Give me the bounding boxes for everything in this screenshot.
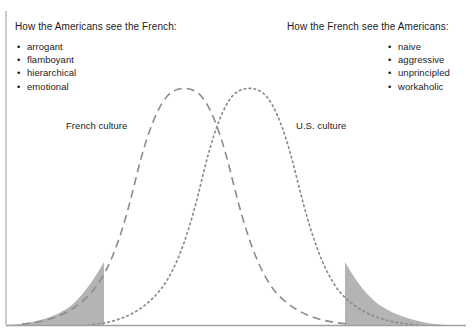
list-item: • naive	[388, 40, 450, 53]
list-item: • aggressive	[388, 53, 450, 66]
bullet-icon: •	[17, 53, 20, 66]
list-item: • emotional	[17, 80, 76, 93]
bullet-icon: •	[388, 40, 391, 53]
bullet-icon: •	[388, 53, 391, 66]
traits-list-left: • arrogant • flamboyant • hierarchical •…	[17, 40, 76, 93]
list-item: • workaholic	[388, 80, 450, 93]
list-item-label: flamboyant	[27, 54, 74, 65]
heading-french-see-americans: How the French see the Americans:	[287, 21, 449, 33]
curve-label-french-culture: French culture	[66, 120, 127, 132]
left-tail-shading	[6, 262, 104, 325]
bullet-icon: •	[17, 66, 20, 79]
list-item: • hierarchical	[17, 66, 76, 79]
list-item: • arrogant	[17, 40, 76, 53]
bullet-icon: •	[17, 40, 20, 53]
list-item-label: emotional	[27, 81, 69, 92]
list-item-label: naive	[398, 41, 421, 52]
bullet-icon: •	[17, 80, 20, 93]
traits-list-right: • naive • aggressive • unprincipled • wo…	[388, 40, 450, 93]
list-item-label: aggressive	[398, 54, 444, 65]
heading-americans-see-french: How the Americans see the French:	[15, 21, 177, 33]
diagram-canvas: How the Americans see the French: How th…	[0, 0, 472, 332]
right-tail-shading	[345, 262, 445, 325]
list-item-label: unprincipled	[398, 67, 450, 78]
list-item: • flamboyant	[17, 53, 76, 66]
list-item-label: workaholic	[398, 81, 443, 92]
bullet-icon: •	[388, 66, 391, 79]
curve-label-us-culture: U.S. culture	[296, 120, 346, 132]
us-culture-curve	[88, 88, 418, 325]
bullet-icon: •	[388, 80, 391, 93]
list-item-label: arrogant	[27, 41, 63, 52]
list-item: • unprincipled	[388, 66, 450, 79]
list-item-label: hierarchical	[27, 67, 76, 78]
